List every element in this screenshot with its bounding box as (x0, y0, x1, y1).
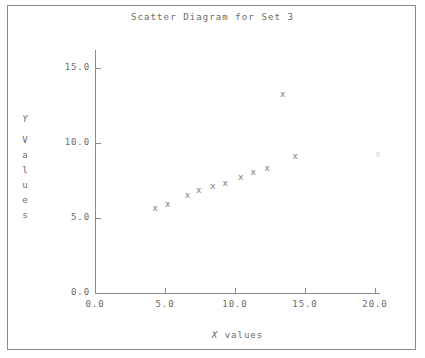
y-axis-title-char: Y (14, 112, 36, 127)
x-tick-label: 5.0 (142, 299, 188, 309)
x-tick-label: 10.0 (212, 299, 258, 309)
y-axis-title-char: u (14, 178, 36, 193)
y-tick-label: 0.0 (44, 287, 90, 297)
x-tick-mark (375, 288, 376, 294)
x-tick-label: 0.0 (72, 299, 118, 309)
x-axis-line (95, 293, 380, 294)
y-tick-label: 15.0 (44, 62, 90, 72)
y-axis-title-char: a (14, 148, 36, 163)
x-axis-title: X values (95, 330, 380, 340)
scatter-figure: Scatter Diagram for Set 3 YValues 0.05.0… (0, 0, 425, 358)
y-axis-title-char: e (14, 193, 36, 208)
y-tick-label: 10.0 (44, 137, 90, 147)
y-axis-title-char: l (14, 163, 36, 178)
y-axis-title-char: s (14, 208, 36, 223)
chart-title: Scatter Diagram for Set 3 (0, 12, 425, 22)
x-tick-label: 15.0 (282, 299, 328, 309)
y-axis-title: YValues (14, 112, 36, 223)
y-axis-title-char: V (14, 133, 36, 148)
x-axis-title-text: values (218, 330, 263, 340)
x-tick-label: 20.0 (352, 299, 398, 309)
y-tick-label: 5.0 (44, 212, 90, 222)
plot-area (95, 50, 375, 293)
